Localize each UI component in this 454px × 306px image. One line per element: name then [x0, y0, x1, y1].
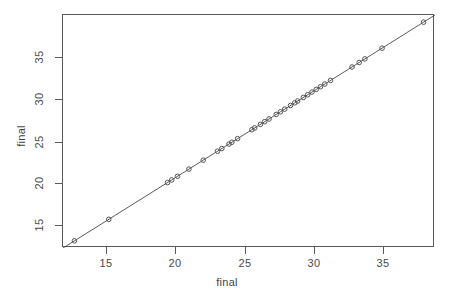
x-tick-label: 35: [377, 257, 390, 269]
plot-area: [62, 14, 434, 247]
x-tick-mark: [175, 247, 176, 254]
x-tick-label: 30: [308, 257, 321, 269]
plot-canvas: [63, 15, 435, 248]
identity-reference-line: [63, 15, 435, 248]
x-tick-label: 25: [239, 257, 252, 269]
y-axis-title: final: [15, 125, 27, 147]
x-axis-title: final: [0, 276, 454, 288]
y-tick-mark: [55, 225, 62, 226]
y-tick-label: 20: [33, 177, 45, 190]
x-tick-mark: [383, 247, 384, 254]
x-tick-label: 15: [100, 257, 113, 269]
y-tick-mark: [55, 183, 62, 184]
scatter-plot-figure: 15 20 25 30 35 15 20 25 30 35 final fina…: [0, 0, 454, 306]
x-tick-mark: [245, 247, 246, 254]
x-tick-mark: [314, 247, 315, 254]
y-tick-label: 35: [33, 51, 45, 64]
x-tick-label: 20: [169, 257, 182, 269]
y-tick-mark: [55, 57, 62, 58]
y-tick-mark: [55, 142, 62, 143]
x-tick-mark: [106, 247, 107, 254]
y-tick-label: 15: [33, 219, 45, 232]
y-tick-label: 30: [33, 93, 45, 106]
y-tick-mark: [55, 99, 62, 100]
y-tick-label: 25: [33, 136, 45, 149]
